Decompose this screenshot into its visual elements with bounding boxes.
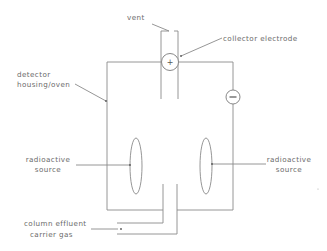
collector-electrode: + (162, 54, 179, 71)
housing-label-line1: detector (17, 70, 51, 79)
inlet-label-line2: carrier gas (30, 230, 73, 239)
source-left-label-line2: source (35, 165, 61, 174)
inlet-pipes (117, 184, 177, 234)
ecd-diagram: + vent collector electrode detector hous… (0, 0, 327, 251)
detector-housing (107, 62, 233, 210)
vent-leader (152, 24, 169, 31)
housing-label-line2: housing/oven (17, 80, 70, 89)
source-left-label-line1: radioactive (26, 155, 71, 164)
source-right-label-line1: radioactive (267, 155, 312, 164)
housing-leader (75, 84, 106, 101)
collector-electrode-label: collector electrode (223, 34, 298, 43)
negative-electrode (226, 90, 240, 104)
vent-label: vent (127, 13, 145, 22)
plus-symbol: + (167, 58, 174, 67)
inlet-label-line1: column effluent (24, 219, 87, 228)
radioactive-source-left (76, 138, 142, 194)
collector-leader (181, 38, 222, 56)
source-right-label-line2: source (276, 165, 302, 174)
